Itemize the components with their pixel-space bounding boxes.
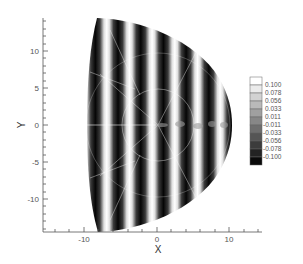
y-tick-label: 0 — [35, 121, 40, 130]
legend-label: 0.011 — [265, 113, 281, 120]
contour-plot: -10 0 10 10 5 0 -5 -10 X Y 0.100 0.078 — [0, 0, 303, 264]
x-tick-label: -10 — [78, 235, 90, 244]
x-tick-labels: -10 0 10 — [78, 235, 234, 244]
legend-label: 0.078 — [265, 89, 282, 96]
legend-labels: 0.100 0.078 0.056 0.033 0.011 -0.011 -0.… — [263, 81, 282, 160]
color-legend: 0.100 0.078 0.056 0.033 0.011 -0.011 -0.… — [250, 77, 282, 165]
y-axis-title: Y — [16, 121, 27, 128]
x-minor-ticks — [55, 229, 258, 232]
y-tick-label: -5 — [32, 158, 40, 167]
legend-colorbar — [250, 77, 262, 165]
y-tick-label: 10 — [30, 47, 39, 56]
y-axis — [43, 18, 48, 232]
legend-label: -0.100 — [263, 153, 282, 160]
x-tick-label: 10 — [225, 235, 234, 244]
legend-label: -0.078 — [263, 145, 282, 152]
legend-label: -0.011 — [263, 121, 281, 128]
field-domain — [80, 15, 240, 235]
legend-label: 0.056 — [265, 97, 282, 104]
x-tick-label: 0 — [155, 235, 160, 244]
y-tick-labels: 10 5 0 -5 -10 — [27, 47, 39, 204]
legend-label: -0.033 — [263, 129, 282, 136]
y-tick-label: -10 — [27, 195, 39, 204]
x-axis — [43, 227, 262, 232]
x-axis-title: X — [155, 244, 162, 255]
y-tick-label: 5 — [35, 84, 40, 93]
legend-label: 0.100 — [265, 81, 282, 88]
legend-label: -0.056 — [263, 137, 282, 144]
legend-label: 0.033 — [265, 105, 282, 112]
